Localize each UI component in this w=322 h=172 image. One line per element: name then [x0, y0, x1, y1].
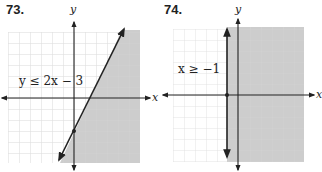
x-axis-label: x — [316, 88, 322, 101]
inequality-label: x ≥ −1 — [178, 62, 220, 76]
x-axis-label: x — [152, 91, 159, 104]
graph-73: 73. x y y ≤ 2x − 3 — [0, 0, 161, 172]
inequality-label: y ≤ 2x − 3 — [18, 74, 83, 88]
graph-73-plot: x y y ≤ 2x − 3 — [0, 0, 161, 172]
y-axis-label: y — [69, 3, 77, 16]
y-axis-label: y — [234, 3, 242, 16]
x-intercept-point — [225, 93, 229, 97]
graph-74-plot: x y x ≥ −1 — [161, 0, 322, 172]
graph-74: 74. x y x ≥ −1 — [161, 0, 322, 172]
y-intercept-point — [72, 129, 76, 133]
